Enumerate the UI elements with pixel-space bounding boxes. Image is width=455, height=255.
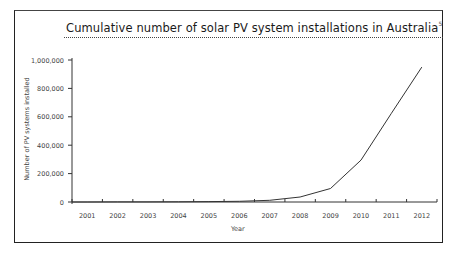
x-tick-label: 2012 xyxy=(414,212,431,220)
y-tick-label: 600,000 xyxy=(37,113,64,121)
y-axis-label: Number of PV systems installed xyxy=(23,69,31,189)
x-axis-label: Year xyxy=(231,225,245,233)
y-tick-label: 400,000 xyxy=(37,142,64,150)
x-tick-label: 2009 xyxy=(322,212,339,220)
x-tick-label: 2001 xyxy=(79,212,96,220)
x-tick-label: 2008 xyxy=(292,212,309,220)
x-tick-label: 2005 xyxy=(201,212,218,220)
y-tick-label: 200,000 xyxy=(37,170,64,178)
x-tick-label: 2010 xyxy=(353,212,370,220)
y-tick-label: 0 xyxy=(60,199,64,207)
x-tick-label: 2007 xyxy=(261,212,278,220)
x-tick-label: 2006 xyxy=(231,212,248,220)
plot-area: 0200,000400,000600,000800,0001,000,00020… xyxy=(0,0,455,255)
axes: 0200,000400,000600,000800,0001,000,00020… xyxy=(31,57,437,221)
x-tick-label: 2011 xyxy=(383,212,400,220)
y-tick-label: 1,000,000 xyxy=(31,57,64,65)
x-tick-label: 2004 xyxy=(170,212,187,220)
y-tick-label: 800,000 xyxy=(37,85,64,93)
x-tick-label: 2002 xyxy=(109,212,126,220)
data-line xyxy=(72,67,422,202)
x-tick-label: 2003 xyxy=(140,212,157,220)
